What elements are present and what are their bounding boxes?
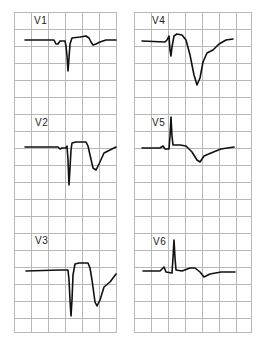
trace-v2 bbox=[25, 142, 116, 185]
trace-v6 bbox=[143, 240, 235, 277]
ecg-traces bbox=[0, 0, 265, 345]
trace-v3 bbox=[26, 263, 116, 316]
trace-v1 bbox=[25, 36, 116, 71]
trace-v5 bbox=[142, 117, 234, 162]
trace-v4 bbox=[142, 34, 233, 85]
